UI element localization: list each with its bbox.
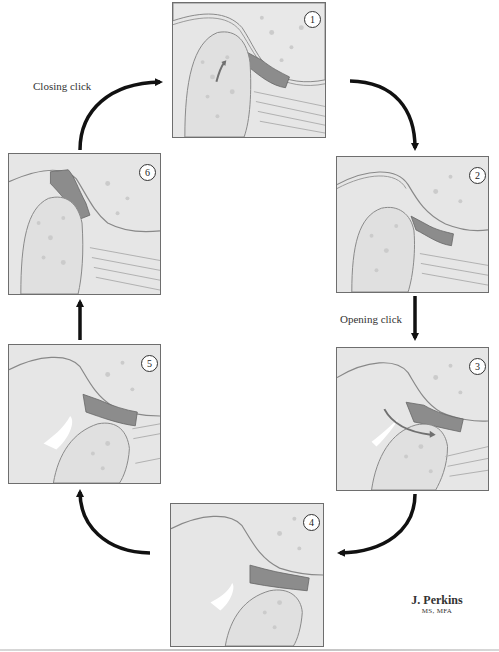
panel-3: 3: [336, 347, 489, 491]
arrow-1-to-2: [350, 81, 415, 148]
closing-click-label: Closing click: [33, 80, 91, 92]
artist-credentials: MS, MFA: [392, 607, 482, 615]
panel-4: 4: [170, 503, 324, 647]
step-number-badge: 4: [303, 514, 320, 531]
arrow-4-to-5: [80, 492, 150, 553]
panel-5: 5: [8, 344, 161, 484]
opening-click-label: Opening click: [340, 313, 402, 325]
step-number-badge: 5: [141, 355, 158, 372]
step-number-badge: 1: [304, 11, 321, 28]
arrow-3-to-4: [340, 494, 415, 553]
step-number-badge: 6: [139, 164, 156, 181]
step-number-badge: 3: [469, 358, 486, 375]
panel-6: 6: [8, 153, 161, 295]
artist-name: J. Perkins: [392, 593, 482, 608]
step-number-badge: 2: [469, 167, 486, 184]
arrow-6-to-1: [80, 82, 160, 150]
artist-signature: J. Perkins MS, MFA: [392, 593, 482, 615]
panel-2: 2: [336, 156, 489, 293]
panel-1: 1: [172, 2, 326, 138]
bottom-divider: [0, 649, 499, 651]
